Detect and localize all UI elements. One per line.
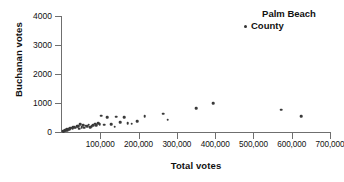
x-tick-mark — [215, 133, 216, 139]
y-tick-label: 3000 — [0, 41, 52, 50]
data-point — [127, 122, 130, 125]
data-point — [143, 115, 146, 118]
x-tick-mark — [253, 133, 254, 139]
x-tick-label: 200,000 — [124, 140, 153, 149]
y-tick-mark — [55, 103, 61, 104]
x-axis-title: Total votes — [61, 160, 331, 171]
legend-label-line1: Palm Beach — [238, 8, 334, 20]
y-tick-mark — [55, 45, 61, 46]
x-tick-label: 600,000 — [277, 140, 306, 149]
x-tick-label: 400,000 — [201, 140, 230, 149]
x-axis-line — [61, 132, 331, 133]
legend-entry: County — [238, 20, 334, 32]
x-tick-label: 100,000 — [86, 140, 115, 149]
y-tick-mark — [55, 74, 61, 75]
x-tick-mark — [100, 133, 101, 139]
chart-legend: Palm Beach County — [238, 8, 334, 32]
data-point — [98, 123, 101, 126]
data-point — [162, 113, 165, 116]
data-point — [119, 121, 122, 124]
data-point — [114, 125, 117, 128]
x-tick-label: 300,000 — [162, 140, 191, 149]
y-tick-label: 0 — [0, 128, 52, 137]
data-point — [280, 109, 283, 112]
data-point — [195, 107, 198, 110]
x-tick-label: 500,000 — [239, 140, 268, 149]
data-point — [130, 122, 133, 125]
x-tick-mark — [292, 133, 293, 139]
y-tick-label: 4000 — [0, 12, 52, 21]
plot-area — [62, 16, 330, 132]
data-point — [100, 114, 103, 117]
y-tick-mark — [55, 16, 61, 17]
data-point — [115, 115, 118, 118]
y-tick-label: 2000 — [0, 70, 52, 79]
dot-marker-icon — [244, 25, 247, 28]
x-tick-mark — [330, 133, 331, 139]
x-tick-mark — [139, 133, 140, 139]
data-point — [212, 102, 215, 105]
legend-label-line2: County — [251, 20, 284, 32]
y-axis-title-container: Buchanan votes — [0, 0, 53, 182]
data-point — [110, 123, 113, 126]
data-point — [136, 120, 139, 123]
y-tick-mark — [55, 132, 61, 133]
data-point — [106, 116, 109, 119]
data-point — [103, 123, 106, 126]
x-tick-label: 700,000 — [316, 140, 344, 149]
data-point — [166, 118, 169, 121]
data-point — [300, 115, 303, 118]
y-tick-label: 1000 — [0, 99, 52, 108]
data-point — [123, 116, 126, 119]
x-tick-mark — [177, 133, 178, 139]
